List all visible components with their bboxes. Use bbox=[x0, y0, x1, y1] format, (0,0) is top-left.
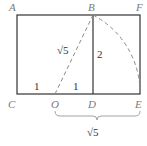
point-label-B: B bbox=[88, 1, 95, 13]
segment-label-BD: 2 bbox=[97, 48, 103, 60]
point-label-F: F bbox=[135, 1, 143, 13]
point-label-D: D bbox=[87, 98, 96, 110]
point-label-C: C bbox=[8, 98, 16, 110]
point-label-A: A bbox=[8, 1, 16, 13]
brace-OE bbox=[55, 111, 140, 120]
segment-label-OD: 1 bbox=[73, 80, 79, 92]
golden-rectangle-diagram: A B F C O D E 1 1 √5 2 √5 bbox=[0, 0, 147, 146]
point-label-O: O bbox=[51, 98, 59, 110]
brace-label-OE: √5 bbox=[87, 126, 99, 138]
segment-label-CO: 1 bbox=[34, 80, 40, 92]
segment-label-OB: √5 bbox=[57, 44, 69, 56]
point-label-E: E bbox=[134, 98, 142, 110]
